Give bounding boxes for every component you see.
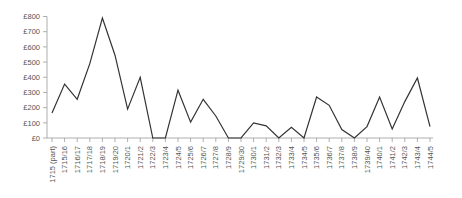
- x-tick-label: 1729/30: [237, 146, 246, 173]
- x-tick-label: 1741/2: [388, 146, 397, 169]
- x-tick-label: 1739/40: [363, 146, 372, 173]
- x-tick-label: 1723/4: [161, 146, 170, 169]
- x-tick-label: 1731/2: [262, 146, 271, 169]
- x-tick-label: 1717/18: [85, 146, 94, 173]
- x-tick-label: 1722/3: [148, 146, 157, 169]
- line-chart: £0£100£200£300£400£500£600£700£800 1715 …: [0, 0, 462, 198]
- x-tick-label: 1721/2: [136, 146, 145, 169]
- x-tick-label: 1718/19: [98, 146, 107, 173]
- x-tick-label: 1738/9: [350, 146, 359, 169]
- x-tick-label: 1733/4: [287, 146, 296, 169]
- x-tick-label: 1736/7: [325, 146, 334, 169]
- x-tick-label: 1735/6: [312, 146, 321, 169]
- x-tick-label: 1715 (part): [48, 145, 57, 182]
- y-tick-label: £700: [23, 27, 40, 36]
- y-tick-label: £300: [23, 88, 40, 97]
- x-tick-label: 1715/16: [60, 146, 69, 173]
- x-tick-label: 1725/6: [186, 146, 195, 169]
- x-tick-label: 1732/3: [274, 146, 283, 169]
- x-tick-label: 1737/8: [337, 146, 346, 169]
- x-tick-label: 1734/5: [300, 146, 309, 169]
- x-tick-label: 1743/4: [413, 146, 422, 169]
- y-tick-label: £600: [23, 43, 40, 52]
- y-tick-label: £800: [23, 12, 40, 21]
- y-tick-label: £200: [23, 103, 40, 112]
- y-tick-label: £0: [32, 134, 40, 143]
- data-line: [52, 18, 430, 138]
- x-tick-label: 1720/1: [123, 146, 132, 169]
- x-tick-label: 1719/20: [111, 146, 120, 173]
- y-tick-label: £500: [23, 58, 40, 67]
- x-tick-label: 1730/1: [249, 146, 258, 169]
- x-tick-label: 1724/5: [174, 146, 183, 169]
- x-tick-label: 1726/7: [199, 146, 208, 169]
- x-tick-label: 1727/8: [211, 146, 220, 169]
- y-tick-label: £400: [23, 73, 40, 82]
- x-tick-label: 1744/5: [426, 146, 435, 169]
- x-tick-label: 1716/17: [73, 146, 82, 173]
- x-tick-label: 1742/3: [400, 146, 409, 169]
- y-tick-label: £100: [23, 119, 40, 128]
- y-axis: £0£100£200£300£400£500£600£700£800: [23, 12, 47, 143]
- x-tick-label: 1740/1: [375, 146, 384, 169]
- x-tick-label: 1728/9: [224, 146, 233, 169]
- x-axis: 1715 (part)1715/161716/171717/181718/191…: [47, 138, 435, 183]
